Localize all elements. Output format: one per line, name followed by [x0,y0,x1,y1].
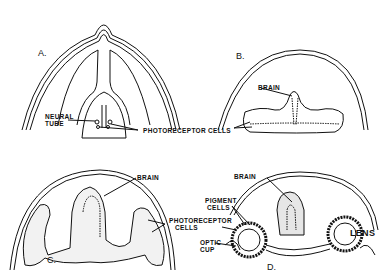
label-lens: LENS [350,230,375,237]
label-photoreceptor-cells: PHOTORECEPTOR CELLS [143,127,231,134]
eye-development-diagram: A. B. C. D. NEURAL TUBE PHOTORECEPTOR CE… [0,0,392,277]
label-cells-c: CELLS [175,224,198,231]
label-pigment: PIGMENT [205,197,237,204]
label-brain-c: BRAIN [137,174,159,181]
label-brain-b: BRAIN [258,84,280,91]
panel-label-d: D. [267,262,276,272]
label-cup: CUP [200,246,215,253]
label-optic: OPTIC [200,239,221,246]
label-tube: TUBE [45,120,64,127]
label-photoreceptor-c: PHOTORECEPTOR [169,217,232,224]
panel-c-drawing [10,170,175,270]
panel-label-b: B. [236,51,245,61]
label-neural: NEURAL [45,113,74,120]
label-pigment-cells: CELLS [207,204,230,211]
label-brain-d: BRAIN [234,173,256,180]
panel-d-drawing [215,172,378,257]
panel-label-a: A. [38,48,47,58]
diagram-drawing [0,0,392,277]
panel-label-c: C. [47,255,56,265]
panel-b-drawing [218,50,368,133]
